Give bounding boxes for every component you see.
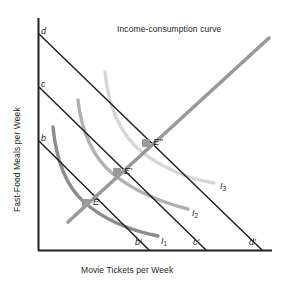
equilibrium-point-e-marker xyxy=(82,199,90,207)
i3-subscript: 3 xyxy=(223,185,227,192)
equilibrium-point-e-double-prime-label: E″ xyxy=(153,137,163,147)
indifference-curve-i3-label: I3 xyxy=(220,182,226,191)
budget-c-x-intercept-label: c' xyxy=(193,238,199,247)
equilibrium-point-e-double-prime-marker xyxy=(142,139,150,147)
y-axis-title: Fast-Food Meals per Week xyxy=(13,107,22,212)
i2-subscript: 2 xyxy=(195,212,199,219)
indifference-curve-i2 xyxy=(78,100,188,209)
equilibrium-point-e-prime-label: E′ xyxy=(124,166,132,176)
budget-b-intercept-label: b xyxy=(41,134,46,143)
budget-b-x-intercept-label: b' xyxy=(135,238,142,247)
income-consumption-curve-line xyxy=(68,38,269,222)
budget-c-intercept-label: c xyxy=(41,80,46,89)
budget-d-intercept-label: d xyxy=(41,27,46,36)
equilibrium-point-e-label: E xyxy=(93,197,99,207)
income-consumption-curve-figure: Fast-Food Meals per Week Movie Tickets p… xyxy=(0,0,282,288)
income-consumption-curve-label: Income-consumption curve xyxy=(117,25,221,34)
budget-d-x-intercept-label: d' xyxy=(249,238,256,247)
equilibrium-point-e-prime-marker xyxy=(113,168,121,176)
indifference-curve-i2-label: I2 xyxy=(192,209,198,218)
x-axis-title: Movie Tickets per Week xyxy=(81,266,173,275)
i1-subscript: 1 xyxy=(164,240,168,247)
indifference-curve-i1-label: I1 xyxy=(161,237,167,246)
